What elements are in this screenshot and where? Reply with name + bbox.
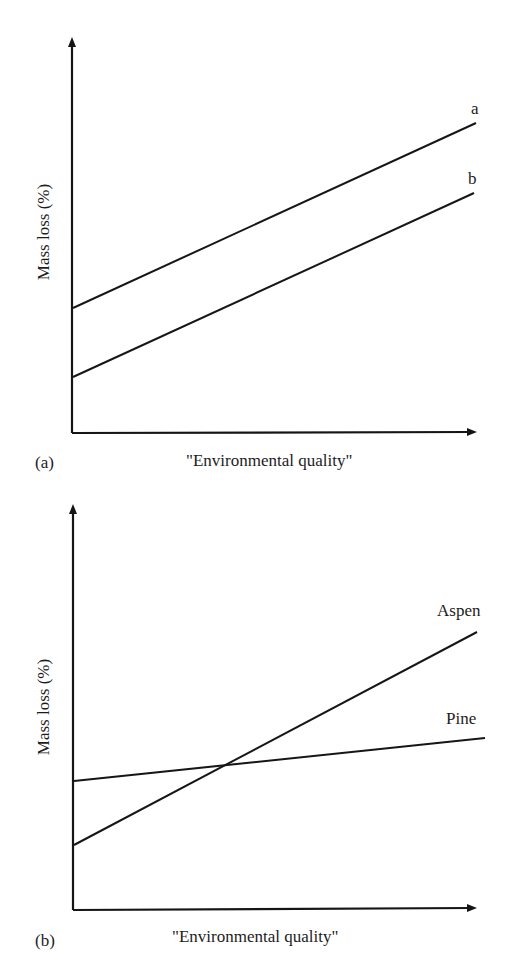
x-axis [73,908,472,910]
x-axis-label: "Environmental quality" [172,928,338,945]
series-a-label: a [471,100,479,117]
chart-a-plot [0,0,521,480]
chart-panel-a: a b Mass loss (%) "Environmental quality… [0,0,521,480]
y-axis-label: Mass loss (%) [34,657,54,757]
chart-panel-b: Aspen Pine Mass loss (%) "Environmental … [0,480,521,956]
series-pine-line [74,738,485,781]
series-aspen-label: Aspen [437,602,480,619]
panel-label-a: (a) [35,454,54,471]
panel-label-b: (b) [35,932,55,949]
series-aspen-line [74,632,477,845]
series-b-label: b [468,170,477,187]
y-axis-label: Mass loss (%) [34,182,54,282]
series-a-line [73,123,476,308]
series-pine-label: Pine [446,710,476,727]
series-b-line [73,193,474,377]
x-axis-label: "Environmental quality" [186,452,352,469]
chart-b-plot [0,480,521,956]
x-axis [72,432,472,433]
